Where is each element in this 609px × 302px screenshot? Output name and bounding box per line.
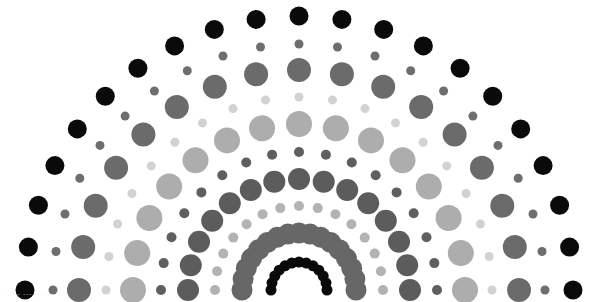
dot [120,277,146,302]
dot [214,127,240,153]
dot [396,254,418,276]
dot [247,10,266,29]
dot [488,286,497,295]
dot [476,220,485,229]
dot [313,203,323,213]
dot [468,112,477,121]
dot [61,210,70,219]
dot [29,196,48,215]
dot [167,232,177,242]
dot [156,174,182,200]
dot [376,266,386,276]
dot [511,119,530,138]
dot [150,87,159,96]
dot [71,235,95,259]
dot [321,150,331,160]
dot [218,249,228,259]
ring-inner-black [266,257,333,296]
dot [295,93,304,102]
dot [322,285,333,296]
dot [507,278,531,302]
dot [68,119,87,138]
dot [131,122,155,146]
dot [452,277,478,302]
dot [378,285,388,295]
dot [328,95,337,104]
dot [127,189,136,198]
dot [371,170,381,180]
dot [210,285,220,295]
dot [121,112,130,121]
dot [249,115,275,141]
dot [124,240,150,266]
dot [358,127,384,153]
dot [147,161,156,170]
dot [514,174,523,183]
dot [422,232,432,242]
dot [52,247,61,256]
dot [360,233,370,243]
dot [550,196,569,215]
dot [313,171,335,193]
dot [294,147,304,157]
dot [361,104,370,113]
dot [503,235,527,259]
dot [483,87,502,106]
dot [256,43,265,52]
dot [529,210,538,219]
dot [275,203,285,213]
dot [201,210,223,232]
dot [165,95,189,119]
dot [219,192,241,214]
dot [261,95,270,104]
dot [436,205,462,231]
dot [84,194,108,218]
dot [470,156,494,180]
dot [414,36,433,55]
dot [409,208,419,218]
dot [177,279,199,301]
dot [240,179,262,201]
dot [205,20,224,39]
dot [241,158,251,168]
dot [560,238,579,257]
dot [388,231,410,253]
dot [346,280,367,301]
dot [371,75,395,99]
dot [19,238,38,257]
dot [333,43,342,52]
dot [170,138,179,147]
dot [290,7,309,26]
dot [323,115,349,141]
dot [217,170,227,180]
dot [198,118,207,127]
dot [286,111,312,137]
dot [180,254,202,276]
dot [294,201,304,211]
dot [332,10,351,29]
dot [416,174,442,200]
dot [374,20,393,39]
dot [564,281,583,300]
dot [196,187,206,197]
dot [96,141,105,150]
dot [219,52,228,61]
dot [104,156,128,180]
dot [159,258,169,268]
dot [443,122,467,146]
dot [494,141,503,150]
dot [102,286,111,295]
dot [203,75,227,99]
dot-pattern-canvas [0,0,609,302]
dot [75,174,84,183]
dot [183,66,192,75]
dot [439,87,448,96]
dot [212,266,222,276]
dot [156,285,166,295]
dot [346,219,356,229]
dot [347,158,357,168]
dot [295,40,304,49]
dot [371,52,380,61]
dot [432,285,442,295]
dot [244,62,268,86]
